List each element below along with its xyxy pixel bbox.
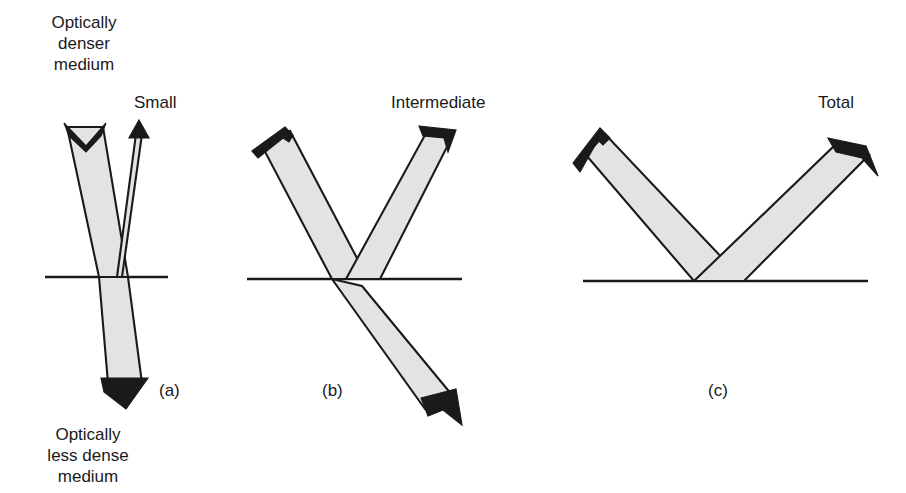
panel-a-group [45, 120, 168, 409]
panel-b-group [247, 126, 462, 425]
panel-tag-b-text: (b) [322, 381, 343, 400]
total-angle-label: Total [818, 92, 854, 113]
optically-denser-medium-label: Optically denser medium [26, 12, 142, 75]
reflected-beam-c [694, 146, 869, 281]
panel-tag-c: (c) [708, 381, 728, 401]
intermediate-angle-text: Intermediate [391, 93, 486, 112]
total-angle-text: Total [818, 93, 854, 112]
small-angle-label: Small [134, 92, 177, 113]
refracted-beam-arrowhead-a [101, 378, 148, 409]
panel-tag-b: (b) [322, 381, 343, 401]
intermediate-angle-label: Intermediate [391, 92, 486, 113]
panel-tag-c-text: (c) [708, 381, 728, 400]
optically-less-dense-medium-label: Optically less dense medium [18, 424, 158, 487]
reflected-beam-a [117, 134, 142, 277]
panel-tag-a: (a) [159, 381, 180, 401]
reflected-beam-arrowhead-a [129, 120, 149, 138]
panel-tag-a-text: (a) [159, 381, 180, 400]
reflected-beam-b [346, 135, 452, 279]
small-angle-text: Small [134, 93, 177, 112]
incident-beam-a [67, 127, 128, 277]
optics-refraction-diagram: Optically denser medium Optically less d… [0, 0, 906, 493]
refracted-beam-b [332, 279, 452, 409]
optically-denser-medium-text: Optically denser medium [51, 13, 116, 74]
incident-beam-b [262, 131, 368, 279]
panel-c-group [573, 128, 878, 281]
optically-less-dense-medium-text: Optically less dense medium [47, 425, 128, 486]
refracted-beam-a [99, 277, 142, 383]
